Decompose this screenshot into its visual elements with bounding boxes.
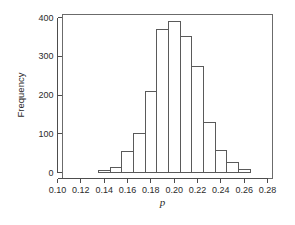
histogram-bar (215, 150, 227, 172)
y-axis: 0100200300400 (38, 13, 62, 178)
y-tick-label: 400 (38, 13, 53, 23)
histogram-figure: 0.100.120.140.160.180.200.220.240.260.28… (0, 0, 295, 225)
x-tick-label: 0.22 (189, 185, 207, 195)
histogram-bar (227, 163, 239, 173)
histogram-bar (203, 123, 215, 173)
y-tick-label: 200 (38, 90, 53, 100)
chart-canvas: 0.100.120.140.160.180.200.220.240.260.28… (0, 0, 295, 225)
x-tick-label: 0.14 (95, 185, 113, 195)
histogram-bar (157, 30, 169, 173)
histogram-bar (180, 37, 192, 173)
x-axis: 0.100.120.140.160.180.200.220.240.260.28 (49, 179, 277, 195)
x-tick-label: 0.26 (235, 185, 253, 195)
x-tick-label: 0.16 (119, 185, 137, 195)
x-tick-label: 0.12 (72, 185, 90, 195)
y-tick-label: 0 (48, 168, 53, 178)
y-axis-title: Frequency (15, 72, 26, 117)
histogram-bar (110, 167, 122, 172)
x-axis-title: p (159, 196, 166, 208)
x-tick-label: 0.20 (165, 185, 183, 195)
y-tick-label: 100 (38, 129, 53, 139)
y-tick-label: 300 (38, 51, 53, 61)
x-tick-label: 0.28 (259, 185, 277, 195)
histogram-bar (145, 92, 157, 173)
histogram-bars (98, 21, 250, 172)
histogram-bar (122, 152, 134, 173)
histogram-bar (168, 21, 180, 172)
x-tick-label: 0.18 (142, 185, 160, 195)
histogram-bar (192, 67, 204, 173)
x-tick-label: 0.10 (49, 185, 67, 195)
x-tick-label: 0.24 (212, 185, 230, 195)
histogram-bar (133, 134, 145, 173)
